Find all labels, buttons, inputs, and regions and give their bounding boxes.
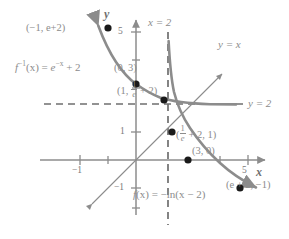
label-1-frac-post: + 2) [137, 85, 157, 96]
label-1-frac-pre: (1, [117, 85, 131, 96]
label-point-e-plus-2-neg1: (e + 2, −1) [226, 180, 271, 191]
label-point-inv-e-plus-2-1: (1e + 2, 1) [176, 124, 216, 142]
label-asymptote-x-equals-2: x = 2 [148, 17, 171, 28]
point-neg1-e-plus-2 [104, 24, 111, 31]
label-point-1-inv-e-plus-2: (1, 1e + 2) [117, 80, 157, 98]
label-asymptote-y-equals-2: y = 2 [248, 98, 271, 109]
label-identity-line: y = x [218, 39, 241, 50]
inverse-function-exponent: −1 [18, 59, 26, 68]
label-inverse-function: f−1(x) = e−x + 2 [15, 60, 81, 73]
y-tick-1: 1 [120, 127, 125, 137]
x-tick-5: 5 [242, 166, 247, 176]
y-tick-5: 5 [118, 27, 123, 37]
point-inv-e-plus-2-1 [168, 128, 175, 135]
y-tick-neg-1: −1 [114, 183, 124, 193]
x-axis-label: x [256, 166, 262, 178]
point-3-0 [184, 156, 191, 163]
x-tick-neg-1: −1 [72, 166, 82, 176]
y-axis-label: y [104, 8, 109, 20]
function-expression: (x) = −ln(x − 2) [136, 188, 205, 200]
figure-canvas: y x 5 1 −1 −1 5 (−1, e+2) f−1(x) = e−x +… [0, 0, 289, 239]
label-point-3-0: (3, 0) [192, 146, 215, 157]
inverse-function-arg: (x) = [26, 61, 51, 73]
label-point-neg1-e-plus-2: (−1, e+2) [26, 23, 65, 34]
label-point-0-3: (0, 3) [114, 63, 137, 74]
label-function: f(x) = −ln(x − 2) [133, 189, 205, 200]
graph-svg [0, 0, 289, 239]
point-1-inv-e-plus-2 [160, 96, 167, 103]
inverse-function-tail: + 2 [63, 61, 80, 73]
label-frac1-post: + 2, 1) [186, 129, 216, 140]
